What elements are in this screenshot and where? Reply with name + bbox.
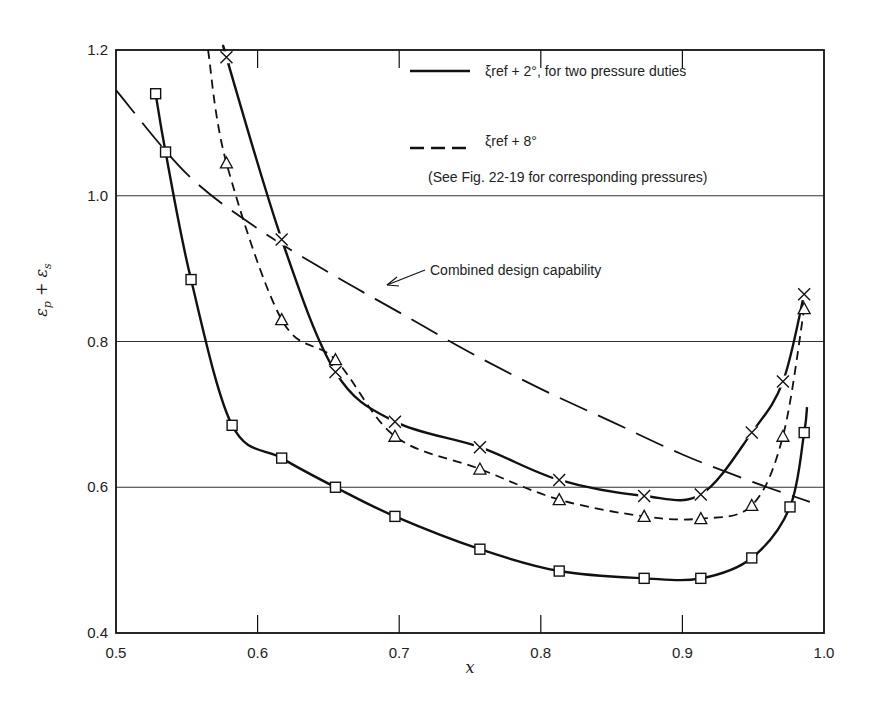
triangle-marker-icon <box>777 430 789 441</box>
triangle-marker-icon <box>276 314 288 325</box>
square-marker-icon <box>799 428 809 438</box>
x-tick-label: 0.5 <box>106 644 127 661</box>
x-tick-label: 1.0 <box>814 644 835 661</box>
x-marker-icon <box>474 441 486 453</box>
square-marker-icon <box>785 502 795 512</box>
y-axis-title: εp + εs <box>32 263 54 317</box>
x-marker-icon <box>798 288 810 300</box>
x-tick-label: 0.9 <box>672 644 693 661</box>
x-marker-icon <box>638 490 650 502</box>
y-tick-label: 1.0 <box>87 187 108 204</box>
y-tick-label: 1.2 <box>87 41 108 58</box>
legend-solid-label: ξref + 2°, for two pressure duties <box>485 63 686 79</box>
square-marker-icon <box>227 420 237 430</box>
square-marker-icon <box>151 89 161 99</box>
x-tick-label: 0.6 <box>247 644 268 661</box>
triangle-marker-icon <box>329 354 341 365</box>
square-marker-icon <box>186 275 196 285</box>
square-marker-icon <box>330 482 340 492</box>
x-marker-icon <box>220 51 232 63</box>
legend-dashed-label: ξref + 8° <box>485 133 537 149</box>
series-line-3 <box>116 90 810 502</box>
y-tick-label: 0.4 <box>87 624 108 641</box>
square-marker-icon <box>390 511 400 521</box>
square-marker-icon <box>696 573 706 583</box>
annotation-label: Combined design capability <box>430 262 601 278</box>
x-marker-icon <box>553 474 565 486</box>
square-marker-icon <box>161 147 171 157</box>
x-marker-icon <box>329 366 341 378</box>
square-marker-icon <box>747 553 757 563</box>
square-marker-icon <box>554 566 564 576</box>
annotation-combined-capability: Combined design capability <box>387 262 601 286</box>
square-marker-icon <box>639 573 649 583</box>
y-tick-label: 0.6 <box>87 478 108 495</box>
x-marker-icon <box>777 376 789 388</box>
x-marker-icon <box>389 416 401 428</box>
x-tick-label: 0.7 <box>389 644 410 661</box>
series-line-0 <box>156 94 807 580</box>
svg-text:εp + εs: εp + εs <box>32 263 54 317</box>
axis-ticks: 0.50.60.70.80.91.00.40.60.81.01.2 <box>87 41 834 661</box>
annotation-arrow-line <box>387 270 425 285</box>
x-marker-icon <box>276 233 288 245</box>
legend: ξref + 2°, for two pressure duties ξref … <box>410 63 707 185</box>
x-marker-icon <box>746 427 758 439</box>
square-marker-icon <box>277 453 287 463</box>
triangle-marker-icon <box>474 463 486 474</box>
markers-layer <box>151 51 811 583</box>
x-axis-title: x <box>465 658 474 677</box>
square-marker-icon <box>475 544 485 554</box>
y-tick-label: 0.8 <box>87 333 108 350</box>
x-marker-icon <box>695 489 707 501</box>
x-tick-label: 0.8 <box>530 644 551 661</box>
chart-canvas: 0.50.60.70.80.91.00.40.60.81.01.2 ξref +… <box>0 0 869 705</box>
legend-note: (See Fig. 22-19 for corresponding pressu… <box>428 169 707 185</box>
triangle-marker-icon <box>220 157 232 168</box>
